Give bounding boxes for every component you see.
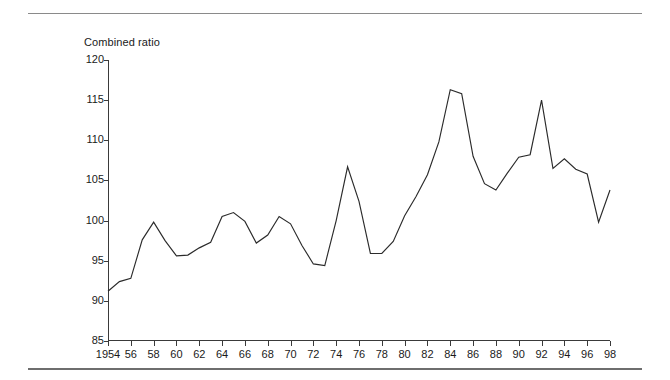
- x-axis-tick: [587, 341, 588, 346]
- x-axis-tick: [542, 341, 543, 346]
- y-axis-tick-label: 120: [64, 53, 104, 65]
- y-axis-tick-label: 115: [64, 93, 104, 105]
- y-axis-tick-label: 90: [64, 294, 104, 306]
- x-axis-tick: [382, 341, 383, 346]
- x-axis-tick-label: 90: [513, 348, 525, 360]
- x-axis-tick-label: 84: [444, 348, 456, 360]
- x-axis-tick-label: 98: [604, 348, 616, 360]
- x-axis-tick-label: 70: [284, 348, 296, 360]
- combined-ratio-line-chart: [108, 60, 610, 341]
- x-axis-tick: [222, 341, 223, 346]
- x-axis-tick-label: 78: [376, 348, 388, 360]
- combined-ratio-series-path: [108, 90, 610, 292]
- x-axis-tick: [473, 341, 474, 346]
- x-axis-tick: [450, 341, 451, 346]
- x-axis-tick: [359, 341, 360, 346]
- x-axis-tick: [176, 341, 177, 346]
- x-axis-tick-label: 62: [193, 348, 205, 360]
- x-axis-tick-label: 86: [467, 348, 479, 360]
- y-axis-labels: 859095100105110115120: [60, 60, 104, 341]
- x-axis-ticks: [108, 341, 610, 347]
- x-axis-tick-label: 64: [216, 348, 228, 360]
- y-axis-tick-label: 100: [64, 214, 104, 226]
- x-axis-tick: [564, 341, 565, 346]
- x-axis-tick: [268, 341, 269, 346]
- x-axis-tick: [313, 341, 314, 346]
- x-axis-tick-label: 66: [239, 348, 251, 360]
- x-axis-tick-label: 60: [170, 348, 182, 360]
- bottom-divider-rule: [28, 368, 642, 370]
- x-axis-tick-label: 92: [535, 348, 547, 360]
- chart-page: Combined ratio 859095100105110115120 195…: [0, 0, 670, 380]
- y-axis-tick-label: 85: [64, 334, 104, 346]
- x-axis-tick: [131, 341, 132, 346]
- x-axis-tick-label: 94: [558, 348, 570, 360]
- y-axis-tick-label: 110: [64, 133, 104, 145]
- x-axis-tick: [519, 341, 520, 346]
- x-axis-tick-label: 80: [399, 348, 411, 360]
- x-axis-tick: [108, 341, 109, 346]
- x-axis-tick: [154, 341, 155, 346]
- x-axis-tick-label: 96: [581, 348, 593, 360]
- x-axis-tick-label: 58: [148, 348, 160, 360]
- x-axis-tick: [496, 341, 497, 346]
- x-axis-tick: [427, 341, 428, 346]
- x-axis-tick-label: 74: [330, 348, 342, 360]
- x-axis-tick-label: 76: [353, 348, 365, 360]
- x-axis-tick-label: 82: [421, 348, 433, 360]
- x-axis-tick-label: 56: [125, 348, 137, 360]
- x-axis-tick-label: 68: [262, 348, 274, 360]
- x-axis-tick: [610, 341, 611, 346]
- x-axis-tick-label: 72: [307, 348, 319, 360]
- x-axis-labels: 1954565860626466687072747678808284868890…: [0, 348, 670, 364]
- x-axis-tick: [245, 341, 246, 346]
- chart-title: Combined ratio: [84, 36, 160, 48]
- x-axis-tick-label: 1954: [96, 348, 120, 360]
- x-axis-tick: [336, 341, 337, 346]
- x-axis-tick: [405, 341, 406, 346]
- x-axis-tick-label: 88: [490, 348, 502, 360]
- top-divider-rule: [28, 13, 642, 14]
- x-axis-tick: [199, 341, 200, 346]
- x-axis-tick: [291, 341, 292, 346]
- y-axis-tick-label: 105: [64, 173, 104, 185]
- y-axis-tick-label: 95: [64, 254, 104, 266]
